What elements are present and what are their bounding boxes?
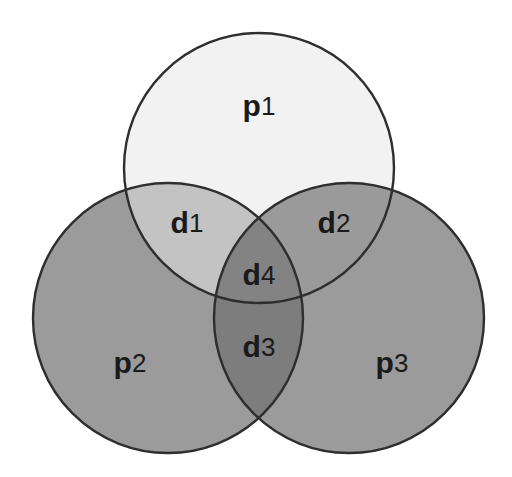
label-d1: d1 — [171, 206, 204, 239]
label-p1: p1 — [243, 89, 276, 122]
label-d4-sub: 4 — [261, 260, 275, 290]
label-d2-base: d — [318, 206, 336, 239]
label-d3-sub: 3 — [261, 332, 275, 362]
label-p2: p2 — [114, 346, 147, 379]
label-p3-sub: 3 — [394, 348, 408, 378]
label-p2-base: p — [114, 346, 132, 379]
label-d4-base: d — [243, 258, 261, 291]
label-d1-base: d — [171, 206, 189, 239]
label-d2-sub: 2 — [336, 208, 350, 238]
venn-diagram-canvas: p1 p2 p3 d1 d2 d3 d4 — [0, 0, 512, 477]
label-d4: d4 — [243, 258, 276, 291]
label-d3: d3 — [243, 330, 276, 363]
label-p3: p3 — [376, 346, 409, 379]
label-d2: d2 — [318, 206, 351, 239]
label-d3-base: d — [243, 330, 261, 363]
label-p2-sub: 2 — [132, 348, 146, 378]
label-d1-sub: 1 — [189, 208, 203, 238]
label-p1-base: p — [243, 89, 261, 122]
venn-diagram-svg: p1 p2 p3 d1 d2 d3 d4 — [0, 0, 512, 477]
label-p1-sub: 1 — [261, 91, 275, 121]
label-p3-base: p — [376, 346, 394, 379]
